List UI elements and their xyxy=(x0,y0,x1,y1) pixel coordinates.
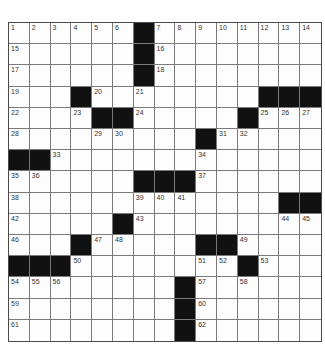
grid-cell[interactable]: 56 xyxy=(51,277,72,298)
grid-cell[interactable]: 3 xyxy=(51,23,72,44)
grid-cell[interactable]: 57 xyxy=(196,277,217,298)
grid-cell[interactable]: 22 xyxy=(9,108,30,129)
grid-cell[interactable]: 35 xyxy=(9,171,30,192)
grid-cell[interactable] xyxy=(30,65,51,86)
grid-cell[interactable] xyxy=(30,108,51,129)
grid-cell[interactable] xyxy=(217,320,238,341)
grid-cell[interactable] xyxy=(196,108,217,129)
grid-cell[interactable] xyxy=(259,193,280,214)
grid-cell[interactable] xyxy=(196,193,217,214)
grid-cell[interactable]: 32 xyxy=(238,129,259,150)
grid-cell[interactable] xyxy=(300,150,321,171)
grid-cell[interactable] xyxy=(279,235,300,256)
grid-cell[interactable]: 13 xyxy=(279,23,300,44)
grid-cell[interactable]: 25 xyxy=(259,108,280,129)
grid-cell[interactable] xyxy=(71,214,92,235)
grid-cell[interactable] xyxy=(113,44,134,65)
grid-cell[interactable] xyxy=(238,150,259,171)
grid-cell[interactable] xyxy=(238,299,259,320)
grid-cell[interactable] xyxy=(30,129,51,150)
grid-cell[interactable] xyxy=(30,320,51,341)
grid-cell[interactable] xyxy=(238,214,259,235)
grid-cell[interactable] xyxy=(51,214,72,235)
grid-cell[interactable]: 41 xyxy=(175,193,196,214)
grid-cell[interactable] xyxy=(71,65,92,86)
grid-cell[interactable]: 54 xyxy=(9,277,30,298)
grid-cell[interactable]: 27 xyxy=(300,108,321,129)
grid-cell[interactable]: 37 xyxy=(196,171,217,192)
grid-cell[interactable]: 16 xyxy=(155,44,176,65)
grid-cell[interactable] xyxy=(217,193,238,214)
grid-cell[interactable] xyxy=(217,150,238,171)
grid-cell[interactable] xyxy=(259,44,280,65)
grid-cell[interactable] xyxy=(92,299,113,320)
grid-cell[interactable] xyxy=(279,171,300,192)
grid-cell[interactable] xyxy=(300,129,321,150)
grid-cell[interactable] xyxy=(259,277,280,298)
grid-cell[interactable] xyxy=(300,44,321,65)
grid-cell[interactable] xyxy=(279,277,300,298)
grid-cell[interactable]: 6 xyxy=(113,23,134,44)
grid-cell[interactable]: 61 xyxy=(9,320,30,341)
grid-cell[interactable]: 53 xyxy=(259,256,280,277)
grid-cell[interactable] xyxy=(279,44,300,65)
grid-cell[interactable]: 8 xyxy=(175,23,196,44)
grid-cell[interactable] xyxy=(175,65,196,86)
grid-cell[interactable] xyxy=(113,193,134,214)
grid-cell[interactable] xyxy=(259,171,280,192)
grid-cell[interactable] xyxy=(300,277,321,298)
grid-cell[interactable] xyxy=(196,87,217,108)
grid-cell[interactable] xyxy=(279,320,300,341)
grid-cell[interactable] xyxy=(92,193,113,214)
grid-cell[interactable] xyxy=(279,65,300,86)
grid-cell[interactable] xyxy=(155,129,176,150)
grid-cell[interactable] xyxy=(51,65,72,86)
grid-cell[interactable] xyxy=(30,214,51,235)
grid-cell[interactable] xyxy=(300,65,321,86)
grid-cell[interactable] xyxy=(300,235,321,256)
grid-cell[interactable] xyxy=(71,129,92,150)
grid-cell[interactable] xyxy=(238,171,259,192)
grid-cell[interactable] xyxy=(279,299,300,320)
grid-cell[interactable]: 39 xyxy=(134,193,155,214)
grid-cell[interactable]: 17 xyxy=(9,65,30,86)
grid-cell[interactable]: 43 xyxy=(134,214,155,235)
grid-cell[interactable] xyxy=(279,256,300,277)
grid-cell[interactable] xyxy=(238,87,259,108)
grid-cell[interactable]: 9 xyxy=(196,23,217,44)
grid-cell[interactable] xyxy=(155,108,176,129)
grid-cell[interactable] xyxy=(238,193,259,214)
grid-cell[interactable] xyxy=(71,277,92,298)
grid-cell[interactable] xyxy=(71,193,92,214)
grid-cell[interactable]: 20 xyxy=(92,87,113,108)
grid-cell[interactable] xyxy=(134,277,155,298)
grid-cell[interactable] xyxy=(259,65,280,86)
grid-cell[interactable]: 4 xyxy=(71,23,92,44)
grid-cell[interactable] xyxy=(71,150,92,171)
grid-cell[interactable] xyxy=(155,299,176,320)
grid-cell[interactable] xyxy=(175,150,196,171)
grid-cell[interactable] xyxy=(71,320,92,341)
grid-cell[interactable] xyxy=(217,299,238,320)
grid-cell[interactable] xyxy=(51,235,72,256)
grid-cell[interactable] xyxy=(134,256,155,277)
grid-cell[interactable] xyxy=(51,129,72,150)
grid-cell[interactable]: 45 xyxy=(300,214,321,235)
grid-cell[interactable] xyxy=(217,87,238,108)
grid-cell[interactable]: 60 xyxy=(196,299,217,320)
grid-cell[interactable] xyxy=(259,235,280,256)
grid-cell[interactable]: 47 xyxy=(92,235,113,256)
grid-cell[interactable] xyxy=(51,299,72,320)
grid-cell[interactable] xyxy=(113,277,134,298)
grid-cell[interactable] xyxy=(155,320,176,341)
grid-cell[interactable] xyxy=(155,277,176,298)
grid-cell[interactable] xyxy=(92,320,113,341)
grid-cell[interactable] xyxy=(51,193,72,214)
grid-cell[interactable] xyxy=(134,235,155,256)
grid-cell[interactable]: 31 xyxy=(217,129,238,150)
grid-cell[interactable] xyxy=(238,320,259,341)
grid-cell[interactable] xyxy=(217,214,238,235)
grid-cell[interactable] xyxy=(259,299,280,320)
grid-cell[interactable]: 44 xyxy=(279,214,300,235)
grid-cell[interactable] xyxy=(51,320,72,341)
